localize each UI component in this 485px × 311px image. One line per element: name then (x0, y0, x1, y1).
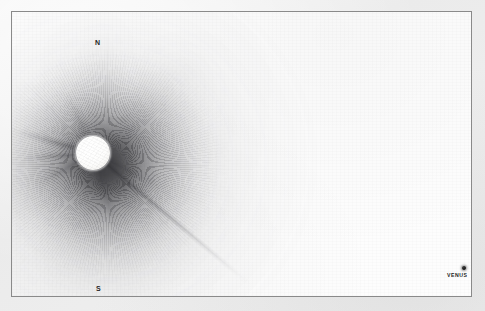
venus-label: VENUS (447, 273, 468, 278)
corona-outer-rays (11, 11, 292, 297)
corona-inner-rays (11, 36, 247, 294)
eclipsed-solar-disk (76, 136, 110, 170)
streamer-se-long (92, 150, 254, 287)
direction-label-south: S (96, 285, 101, 292)
corona-inner-halo (11, 54, 230, 276)
direction-label-north: N (95, 39, 100, 46)
venus-dot-marker (462, 266, 466, 270)
engraving-plate: N S VENUS (0, 0, 485, 311)
corona-wedge-brush (11, 11, 322, 297)
disk-grain (76, 136, 110, 170)
corona-outer-glow (11, 11, 322, 297)
plate-frame: N S VENUS (11, 11, 472, 297)
streamer-se-long-core (92, 150, 254, 287)
